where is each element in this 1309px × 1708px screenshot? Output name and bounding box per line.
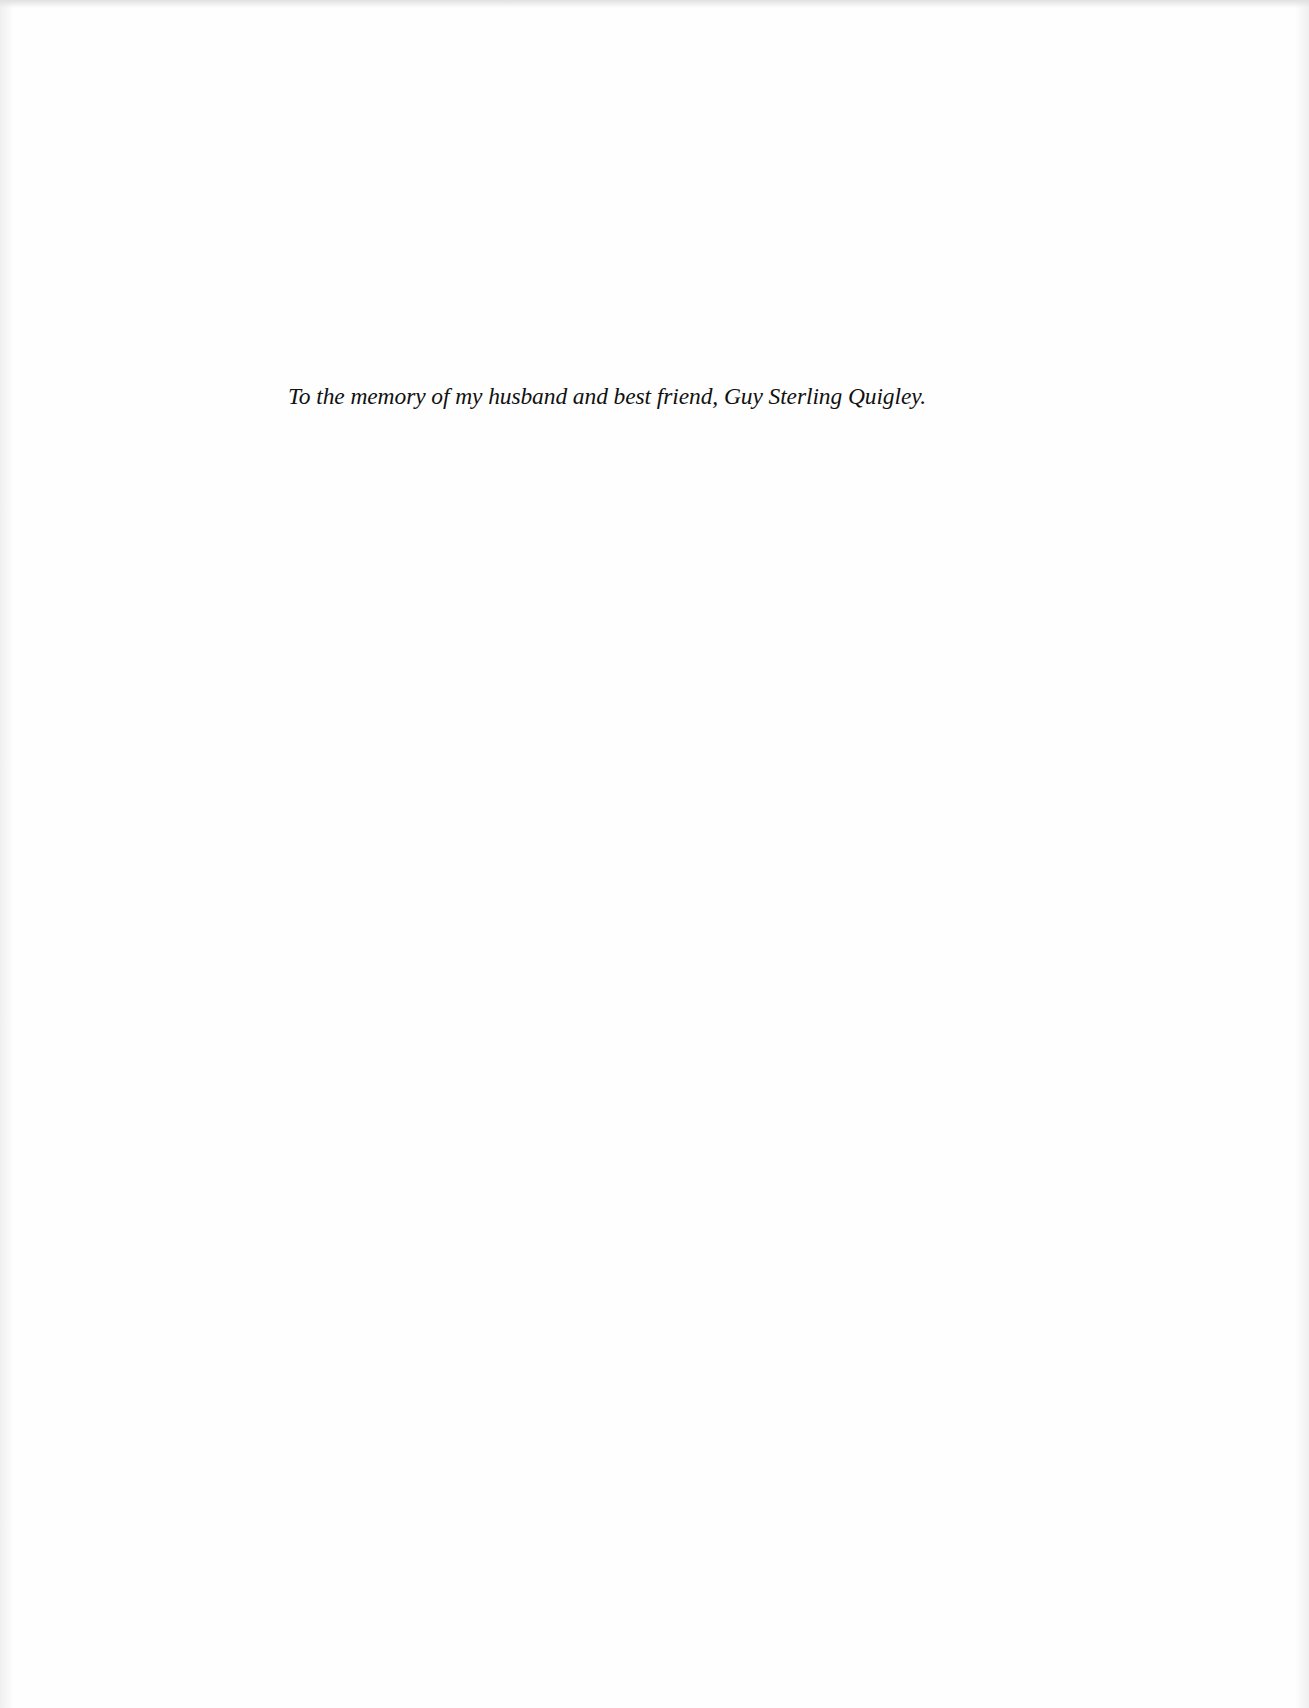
scan-top-edge xyxy=(0,0,1309,8)
document-page: To the memory of my husband and best fri… xyxy=(0,0,1309,1708)
scan-right-edge xyxy=(1295,0,1309,1708)
dedication-text: To the memory of my husband and best fri… xyxy=(288,382,1018,410)
scan-left-edge xyxy=(0,0,14,1708)
